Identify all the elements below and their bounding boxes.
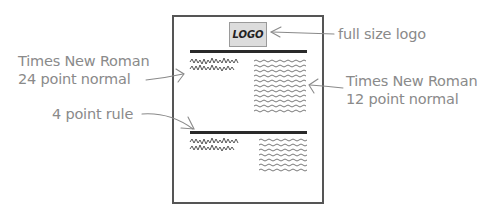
annotation-logo-text: full size logo <box>338 25 426 43</box>
body-scribble-1 <box>254 60 306 112</box>
body-scribble-2 <box>259 139 307 171</box>
headline-scribble-2 <box>190 138 238 151</box>
annotation-headline-font-line2: 24 point normal <box>18 70 149 88</box>
arrow-body-font <box>309 79 343 93</box>
headline-scribble-1 <box>190 58 238 71</box>
annotation-logo: full size logo <box>338 25 426 43</box>
arrow-headline-font <box>146 69 184 82</box>
annotation-headline-font-line1: Times New Roman <box>18 52 149 70</box>
arrow-rule <box>142 114 194 129</box>
annotation-body-font-line2: 12 point normal <box>346 90 477 108</box>
annotation-headline-font: Times New Roman 24 point normal <box>18 52 149 88</box>
annotation-rule: 4 point rule <box>52 105 133 123</box>
arrow-logo <box>271 27 334 37</box>
annotation-rule-text: 4 point rule <box>52 105 133 123</box>
annotation-body-font-line1: Times New Roman <box>346 72 477 90</box>
annotation-body-font: Times New Roman 12 point normal <box>346 72 477 108</box>
